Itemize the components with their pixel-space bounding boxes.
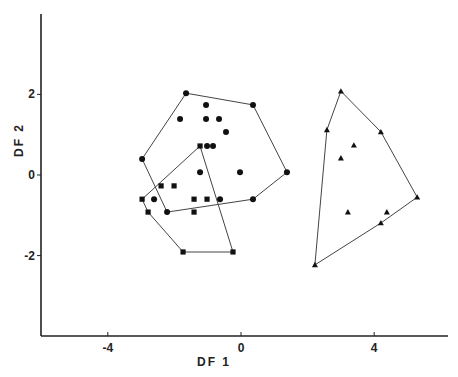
circle-marker <box>183 90 189 96</box>
triangle-marker <box>378 220 384 225</box>
triangle-marker <box>345 209 351 214</box>
square-marker <box>191 197 196 202</box>
x-tick-label: 4 <box>371 341 378 355</box>
circle-marker <box>164 209 170 215</box>
circle-marker <box>216 116 222 122</box>
circle-marker <box>203 102 209 108</box>
triangle-marker <box>324 127 330 132</box>
scatter-chart: -404-202 DF 1 DF 2 <box>0 0 458 377</box>
x-tick-label: -4 <box>102 341 113 355</box>
y-tick-label: 0 <box>28 168 35 182</box>
convex-hulls <box>142 91 417 265</box>
circle-marker <box>203 116 209 122</box>
circle-marker <box>204 143 210 149</box>
circle-marker <box>223 129 229 135</box>
square-marker <box>145 209 150 214</box>
circle-marker <box>177 116 183 122</box>
circle-marker <box>250 196 256 202</box>
square-marker <box>171 183 176 188</box>
circle-marker <box>139 156 145 162</box>
triangle-marker <box>338 155 344 160</box>
axes: -404-202 <box>24 14 448 355</box>
group-triangles-hull <box>315 91 417 265</box>
triangle-marker <box>414 194 420 199</box>
square-marker <box>180 249 185 254</box>
square-marker <box>230 249 235 254</box>
square-marker <box>197 143 202 148</box>
triangle-marker <box>312 262 318 267</box>
y-axis-label: DF 2 <box>12 123 26 157</box>
square-marker <box>139 197 144 202</box>
triangle-marker <box>351 142 357 147</box>
circle-marker <box>197 169 203 175</box>
x-axis-label: DF 1 <box>197 355 231 369</box>
square-marker <box>204 197 209 202</box>
circle-marker <box>210 143 216 149</box>
circle-marker <box>151 196 157 202</box>
circle-marker <box>237 169 243 175</box>
axis-labels: DF 1 DF 2 <box>12 123 231 369</box>
triangle-marker <box>338 88 344 93</box>
square-marker <box>158 183 163 188</box>
y-tick-label: 2 <box>28 87 35 101</box>
circle-marker <box>217 196 223 202</box>
circle-marker <box>284 169 290 175</box>
circle-marker <box>250 102 256 108</box>
square-marker <box>191 209 196 214</box>
y-tick-label: -2 <box>24 249 35 263</box>
x-tick-label: 0 <box>238 341 245 355</box>
triangle-marker <box>384 209 390 214</box>
